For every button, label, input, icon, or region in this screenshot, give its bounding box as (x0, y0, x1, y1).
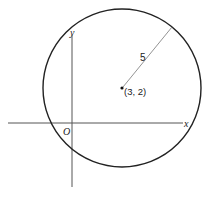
radius-line (123, 27, 172, 87)
y-axis-label: y (69, 27, 75, 38)
radius-label: 5 (140, 52, 146, 63)
origin-label: O (63, 126, 70, 137)
x-axis-label: x (183, 118, 189, 129)
coordinate-plane: x y O 5 (3, 2) (0, 0, 211, 198)
diagram-canvas: x y O 5 (3, 2) (0, 0, 211, 198)
center-label: (3, 2) (124, 86, 146, 97)
